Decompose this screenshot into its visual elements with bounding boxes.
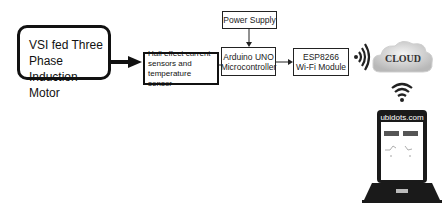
esp-label-2: Wi-Fi Module bbox=[296, 62, 346, 72]
esp-label-1: ESP8266 bbox=[296, 52, 346, 62]
sensor-block: Hall effect current sensors and temperat… bbox=[143, 52, 219, 85]
laptop-icon: ubidots.com bbox=[362, 110, 442, 203]
svg-text:CLOUD: CLOUD bbox=[385, 53, 421, 64]
wireless-signal-icon bbox=[354, 44, 369, 70]
arduino-block: Arduino UNO Microcontroller bbox=[221, 47, 276, 76]
wifi-icon bbox=[392, 84, 412, 102]
motor-block: VSI fed Three Phase Induction Motor bbox=[17, 25, 111, 80]
sensor-label-1: Hall effect current bbox=[148, 49, 217, 59]
sensor-label-3: temperature sensor bbox=[148, 69, 217, 89]
motor-label-2: Phase Induction bbox=[29, 53, 108, 85]
arduino-label-1: Arduino UNO bbox=[221, 52, 277, 62]
motor-label-3: Motor bbox=[29, 85, 108, 101]
power-supply-label: Power Supply bbox=[223, 15, 275, 25]
power-supply-block: Power Supply bbox=[222, 11, 277, 29]
motor-label-1: VSI fed Three bbox=[29, 37, 108, 53]
arduino-label-2: Microcontroller bbox=[221, 62, 277, 72]
esp8266-block: ESP8266 Wi-Fi Module bbox=[293, 48, 349, 76]
sensor-label-2: sensors and bbox=[148, 59, 217, 69]
svg-text:ubidots.com: ubidots.com bbox=[380, 113, 423, 122]
cloud-icon: CLOUD bbox=[373, 41, 433, 72]
